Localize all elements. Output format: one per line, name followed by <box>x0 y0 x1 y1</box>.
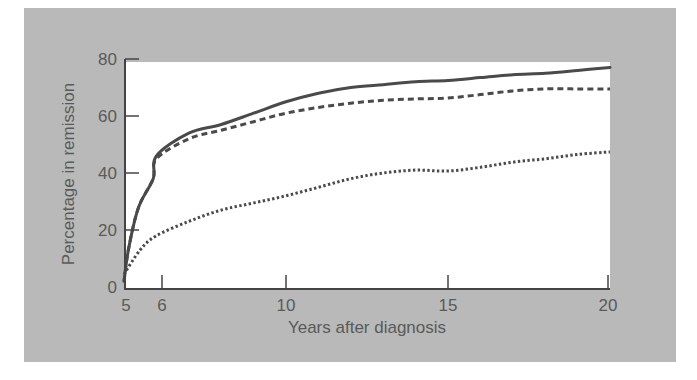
x-axis-title: Years after diagnosis <box>288 318 446 337</box>
y-tick-label: 80 <box>98 50 117 69</box>
x-tick-label: 20 <box>599 296 618 315</box>
x-tick-label: 10 <box>277 296 296 315</box>
y-tick-label: 0 <box>108 278 117 297</box>
y-tick-label: 60 <box>98 107 117 126</box>
y-tick-label: 40 <box>98 164 117 183</box>
x-tick-label: 15 <box>439 296 458 315</box>
y-axis-title: Percentage in remission <box>59 83 78 265</box>
line-chart: 020406080 56101520 Years after diagnosis… <box>0 0 697 380</box>
y-tick-label: 20 <box>98 221 117 240</box>
x-tick-label: 5 <box>121 296 130 315</box>
x-tick-label: 6 <box>157 296 166 315</box>
